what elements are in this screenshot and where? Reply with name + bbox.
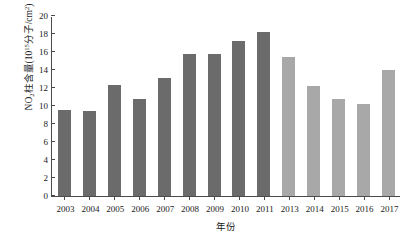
x-axis-title: 年份 <box>51 219 400 233</box>
y-axis-tick: 10 <box>51 105 55 106</box>
y-axis-tick: 20 <box>51 15 55 16</box>
y-axis-title-label: NO2柱含量(1015分子/cm2) <box>21 4 35 111</box>
x-axis-tick-label: 2005 <box>106 204 124 214</box>
x-axis-tick-label: 2010 <box>231 204 249 214</box>
x-axis-tick: 2014 <box>314 196 315 200</box>
y-axis-tick: 4 <box>51 159 55 160</box>
x-axis-tick: 2004 <box>89 196 90 200</box>
bar-2016 <box>357 104 370 196</box>
y-axis-tick-label: 4 <box>44 155 49 165</box>
x-axis-tick-label: 2017 <box>381 204 399 214</box>
x-axis-tick-label: 2013 <box>281 204 299 214</box>
y-axis-tick: 0 <box>51 195 55 196</box>
y-axis-tick-label: 10 <box>39 101 48 111</box>
x-axis-tick-label: 2016 <box>356 204 374 214</box>
x-axis-tick: 2009 <box>214 196 215 200</box>
x-axis-tick: 2013 <box>289 196 290 200</box>
y-axis-tick: 12 <box>51 87 55 88</box>
y-axis-tick: 2 <box>51 177 55 178</box>
y-axis-tick-label: 16 <box>39 47 48 57</box>
y-axis-tick: 8 <box>51 123 55 124</box>
y-axis-tick-label: 14 <box>39 65 48 75</box>
x-axis-tick: 2010 <box>239 196 240 200</box>
bar-2011 <box>257 32 270 196</box>
y-axis-tick-label: 12 <box>39 83 48 93</box>
x-axis-tick: 2005 <box>114 196 115 200</box>
bar-2017 <box>382 70 395 196</box>
x-axis-tick-label: 2014 <box>306 204 324 214</box>
x-axis-tick-label: 2007 <box>156 204 174 214</box>
bar-2015 <box>332 99 345 196</box>
x-axis-tick-label: 2015 <box>331 204 349 214</box>
x-axis-tick: 2007 <box>164 196 165 200</box>
x-axis-tick: 2006 <box>139 196 140 200</box>
x-axis-tick: 2017 <box>389 196 390 200</box>
x-axis-tick-label: 2008 <box>181 204 199 214</box>
x-axis-tick: 2015 <box>339 196 340 200</box>
bar-2008 <box>183 54 196 196</box>
x-axis-tick-label: 2009 <box>206 204 224 214</box>
x-axis-tick-label: 2004 <box>81 204 99 214</box>
y-axis-tick-label: 8 <box>44 119 49 129</box>
bar-2003 <box>58 110 71 196</box>
x-axis-tick-label: 2011 <box>256 204 274 214</box>
x-axis-tick-label: 2003 <box>56 204 74 214</box>
y-axis-tick-label: 0 <box>44 191 49 201</box>
y-axis-title: NO2柱含量(1015分子/cm2) <box>20 0 36 137</box>
bar-2014 <box>307 86 320 196</box>
bar-2009 <box>208 54 221 196</box>
x-axis-tick: 2003 <box>64 196 65 200</box>
x-axis-tick: 2011 <box>264 196 265 200</box>
bar-2007 <box>158 78 171 196</box>
y-axis-tick: 6 <box>51 141 55 142</box>
y-axis-tick-label: 2 <box>44 173 49 183</box>
y-axis-tick: 16 <box>51 51 55 52</box>
x-axis-tick: 2008 <box>189 196 190 200</box>
bar-2006 <box>133 99 146 196</box>
x-axis-tick: 2016 <box>364 196 365 200</box>
y-axis-tick-label: 20 <box>39 11 48 21</box>
y-axis-tick: 18 <box>51 33 55 34</box>
plot-area: 0246810121416182020032004200520062007200… <box>51 17 400 197</box>
y-axis-tick-label: 18 <box>39 29 48 39</box>
no2-column-density-bar-chart: NO2柱含量(1015分子/cm2) 024681012141618202003… <box>0 0 412 242</box>
y-axis-tick-label: 6 <box>44 137 49 147</box>
y-axis-tick: 14 <box>51 69 55 70</box>
bar-2005 <box>108 85 121 196</box>
x-axis-tick-label: 2006 <box>131 204 149 214</box>
bar-2004 <box>83 111 96 196</box>
bar-2013 <box>282 57 295 196</box>
bar-2010 <box>232 41 245 196</box>
